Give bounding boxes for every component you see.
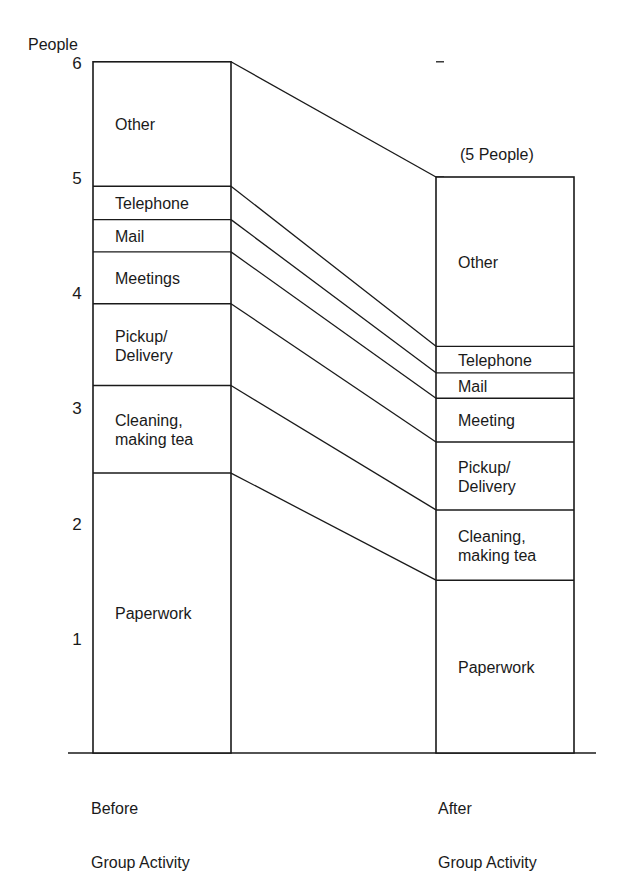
x-label-after: After Group Activity <box>438 764 537 875</box>
segment-label: Cleaning, <box>458 528 526 545</box>
segment-label: Other <box>115 116 156 133</box>
y-tick-label: 5 <box>72 169 81 188</box>
segment-label-line2: making tea <box>458 547 536 564</box>
y-tick-label: 4 <box>72 284 81 303</box>
connector-line <box>231 473 436 580</box>
segment-label: Mail <box>458 378 487 395</box>
segment-label: Paperwork <box>458 659 535 676</box>
segment-label-line2: Delivery <box>458 478 516 495</box>
bar-before <box>93 62 231 753</box>
segment-label: Meeting <box>458 412 515 429</box>
segment-label: Other <box>458 254 499 271</box>
segment-label: Telephone <box>115 195 189 212</box>
segment-label-line2: making tea <box>115 431 193 448</box>
segment-label: Paperwork <box>115 605 192 622</box>
connector-line <box>231 386 436 510</box>
x-label-before-line1: Before <box>91 800 190 818</box>
x-label-before: Before Group Activity <box>91 764 190 875</box>
x-label-after-line1: After <box>438 800 537 818</box>
y-axis-label: People <box>28 36 78 54</box>
segment-label: Meetings <box>115 270 180 287</box>
connector-line <box>231 186 436 346</box>
segment-label-line2: Delivery <box>115 347 173 364</box>
segment-label: Mail <box>115 228 144 245</box>
y-tick-label: 1 <box>72 630 81 649</box>
segment-label: Cleaning, <box>115 412 183 429</box>
y-tick-label: 2 <box>72 515 81 534</box>
x-label-before-line2: Group Activity <box>91 854 190 872</box>
segment-label: Pickup/ <box>458 459 511 476</box>
y-tick-label: 3 <box>72 399 81 418</box>
segment-label: Telephone <box>458 352 532 369</box>
x-label-after-line2: Group Activity <box>438 854 537 872</box>
after-total-annotation: (5 People) <box>460 146 534 164</box>
connector-line <box>231 220 436 373</box>
y-tick-label: 6 <box>72 54 81 73</box>
connector-line <box>231 62 436 177</box>
segment-label: Pickup/ <box>115 328 168 345</box>
